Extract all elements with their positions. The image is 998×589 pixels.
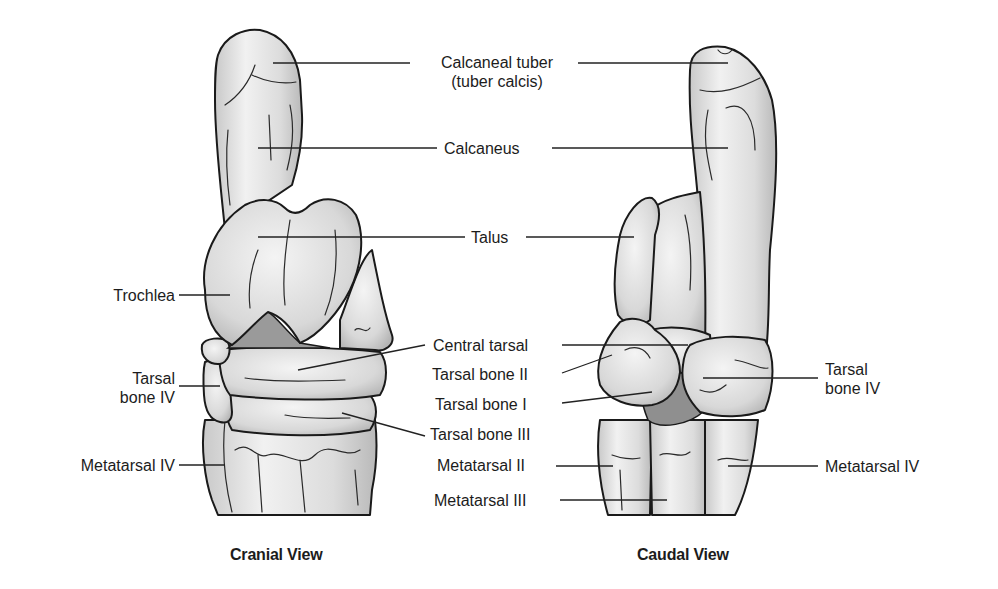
- label-calcaneal-tuber-line2: (tuber calcis): [418, 72, 576, 91]
- cranial-central-tarsal: [219, 347, 386, 399]
- label-trochlea: Trochlea: [70, 286, 175, 305]
- caudal-tarsal-bone-iv: [682, 337, 772, 417]
- label-caudal-tarsal-bone-iv-line2: bone IV: [825, 379, 880, 398]
- label-metatarsal-iii: Metatarsal III: [434, 491, 526, 510]
- caption-caudal-view: Caudal View: [637, 546, 729, 564]
- cranial-talus: [204, 199, 361, 345]
- label-tarsal-bone-ii: Tarsal bone II: [432, 365, 528, 384]
- label-calcaneal-tuber-line1: Calcaneal tuber: [418, 53, 576, 72]
- caudal-metatarsal-ii: [598, 420, 652, 515]
- label-tarsal-bone-i: Tarsal bone I: [435, 395, 527, 414]
- label-cranial-tarsal-bone-iv: Tarsal bone IV: [70, 369, 175, 407]
- caption-cranial-view: Cranial View: [230, 546, 322, 564]
- label-cranial-tarsal-bone-iv-line2: bone IV: [70, 388, 175, 407]
- caudal-metatarsal-iii: [650, 420, 708, 515]
- caudal-view-drawing: [598, 47, 776, 515]
- label-calcaneal-tuber: Calcaneal tuber (tuber calcis): [418, 53, 576, 91]
- label-tarsal-bone-iii: Tarsal bone III: [430, 425, 531, 444]
- label-metatarsal-ii: Metatarsal II: [437, 456, 525, 475]
- label-talus: Talus: [471, 228, 508, 247]
- label-central-tarsal: Central tarsal: [433, 336, 528, 355]
- label-cranial-tarsal-bone-iv-line1: Tarsal: [70, 369, 175, 388]
- label-caudal-tarsal-bone-iv-line1: Tarsal: [825, 360, 880, 379]
- label-caudal-metatarsal-iv: Metatarsal IV: [825, 457, 919, 476]
- label-caudal-tarsal-bone-iv: Tarsal bone IV: [825, 360, 880, 398]
- label-cranial-metatarsal-iv: Metatarsal IV: [20, 456, 175, 475]
- cranial-view-drawing: [202, 30, 393, 515]
- label-calcaneus: Calcaneus: [444, 139, 520, 158]
- caudal-metatarsal-iv: [705, 420, 758, 515]
